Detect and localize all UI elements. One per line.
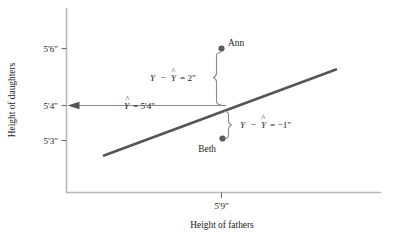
chart-canvas: 5'6" 5'4" 5'3" 5'9" Height of daughters … <box>0 0 398 239</box>
resid-ann-rhs: = 2" <box>180 73 196 83</box>
x-axis-title: Height of fathers <box>190 220 254 230</box>
annotation-residual-ann: Y − Y ^ = 2" <box>150 67 196 84</box>
regression-line <box>104 70 336 156</box>
resid-ann-y: Y <box>150 73 156 83</box>
data-point-beth <box>219 135 225 141</box>
point-label-beth: Beth <box>198 144 216 154</box>
y-tick-label-5ft6: 5'6" <box>43 44 58 54</box>
residual-brace-ann <box>214 53 221 105</box>
annotation-predicted-value: Y ^ = 5'4" <box>124 95 155 112</box>
residual-brace-beth <box>225 112 232 139</box>
y-axis-title: Height of daughters <box>7 62 17 137</box>
resid-beth-minus: − <box>250 120 255 130</box>
y-tick-label-5ft3: 5'3" <box>43 136 58 146</box>
regression-diagram: 5'6" 5'4" 5'3" 5'9" Height of daughters … <box>0 0 398 239</box>
point-label-ann: Ann <box>228 38 244 48</box>
annotation-residual-beth: Y − Y ^ = −1" <box>240 114 291 131</box>
pred-hat-accent: ^ <box>126 95 130 104</box>
data-point-ann <box>218 45 224 51</box>
resid-beth-rhs: = −1" <box>270 120 291 130</box>
y-tick-label-5ft4: 5'4" <box>43 101 58 111</box>
resid-beth-hat-accent: ^ <box>262 114 266 123</box>
pred-rhs: = 5'4" <box>133 101 155 111</box>
resid-ann-minus: − <box>160 73 165 83</box>
resid-beth-y: Y <box>240 120 246 130</box>
x-tick-label-5ft9: 5'9" <box>214 201 229 211</box>
predicted-value-arrowhead <box>68 102 80 109</box>
resid-ann-hat-accent: ^ <box>172 67 176 76</box>
